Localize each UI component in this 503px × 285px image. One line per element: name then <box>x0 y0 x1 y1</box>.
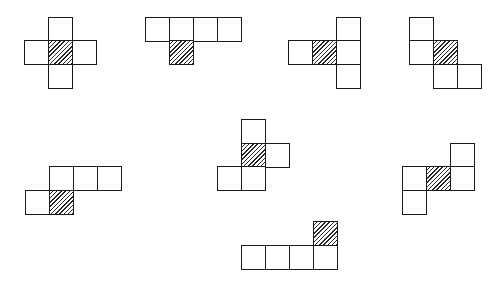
square <box>48 17 73 42</box>
square <box>336 40 361 65</box>
square <box>265 245 290 270</box>
square <box>241 166 266 191</box>
square <box>73 166 98 191</box>
square <box>49 166 74 191</box>
hatched-square <box>312 40 337 65</box>
hatched-square <box>169 40 194 65</box>
square <box>169 17 194 42</box>
hatched-square <box>49 190 74 215</box>
hatched-square <box>313 221 338 246</box>
square <box>313 245 338 270</box>
square <box>145 17 170 42</box>
square <box>217 17 242 42</box>
square <box>409 17 434 42</box>
square <box>48 64 73 89</box>
square <box>457 64 482 89</box>
square <box>336 64 361 89</box>
hatched-square <box>433 40 458 65</box>
square <box>97 166 122 191</box>
square <box>409 40 434 65</box>
square <box>450 166 475 191</box>
square <box>336 17 361 42</box>
square <box>24 40 49 65</box>
square <box>402 190 427 215</box>
square <box>433 64 458 89</box>
square <box>288 40 313 65</box>
hatched-square <box>241 143 266 168</box>
square <box>265 143 290 168</box>
square <box>25 190 50 215</box>
square <box>217 166 242 191</box>
square <box>241 119 266 144</box>
square <box>450 143 475 168</box>
square <box>289 245 314 270</box>
square <box>402 166 427 191</box>
square <box>72 40 97 65</box>
square <box>193 17 218 42</box>
square <box>241 245 266 270</box>
hatched-square <box>426 166 451 191</box>
pentomino-diagram <box>0 0 503 285</box>
hatched-square <box>48 40 73 65</box>
